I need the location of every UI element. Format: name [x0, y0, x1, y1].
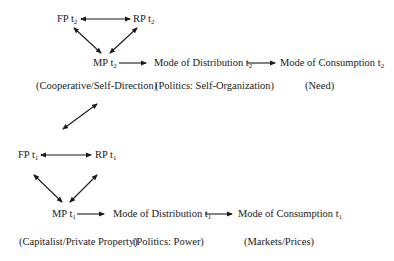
arrow-rp-mp-t1	[70, 175, 97, 202]
fp-t1-node: FP t1	[18, 149, 38, 161]
consumption-t2-caption: (Need)	[305, 80, 334, 92]
distribution-t2-caption: (Politics: Self-Organization)	[155, 80, 274, 92]
rp-t2-label: RP t	[133, 13, 151, 24]
mp-t2-caption: (Cooperative/Self-Direction)	[36, 80, 157, 92]
distribution-t1-caption: (Politics: Power)	[133, 236, 204, 248]
fp-t1-label: FP t	[18, 149, 35, 160]
arrow-rp-mp-t2	[110, 28, 137, 53]
mp-t1-caption: (Capitalist/Private Property)	[19, 236, 138, 248]
consumption-t2-node: Mode of Consumption t2	[280, 57, 384, 69]
arrow-t1-t2	[63, 104, 97, 129]
consumption-t1-node: Mode of Consumption t1	[238, 208, 342, 220]
arrow-fp-mp-t2	[74, 28, 101, 53]
mp-t1-label: MP t	[52, 208, 72, 219]
arrow-layer	[0, 0, 394, 261]
consumption-t2-label: Mode of Consumption t	[280, 57, 381, 68]
consumption-t1-caption: (Markets/Prices)	[244, 236, 314, 248]
rp-t1-node: RP t1	[95, 149, 117, 161]
mp-t2-label: MP t	[93, 57, 113, 68]
distribution-t2-subscript: 2	[249, 62, 253, 70]
consumption-t2-subscript: 2	[381, 62, 385, 70]
mp-t1-subscript: 1	[72, 213, 76, 221]
rp-t2-node: RP t2	[133, 13, 155, 25]
consumption-t1-label: Mode of Consumption t	[238, 208, 339, 219]
consumption-t1-subscript: 1	[339, 213, 343, 221]
mp-t2-node: MP t2	[93, 57, 117, 69]
rp-t2-subscript: 2	[151, 18, 155, 26]
distribution-t1-node: Mode of Distribution t1	[113, 208, 211, 220]
distribution-t1-subscript: 1	[208, 213, 212, 221]
fp-t2-subscript: 2	[74, 18, 78, 26]
fp-t2-label: FP t	[57, 13, 74, 24]
distribution-t1-label: Mode of Distribution t	[113, 208, 208, 219]
mp-t1-node: MP t1	[52, 208, 76, 220]
rp-t1-subscript: 1	[113, 154, 117, 162]
rp-t1-label: RP t	[95, 149, 113, 160]
arrow-fp-mp-t1	[34, 175, 62, 202]
distribution-t2-node: Mode of Distribution t2	[154, 57, 252, 69]
fp-t1-subscript: 1	[35, 154, 39, 162]
distribution-t2-label: Mode of Distribution t	[154, 57, 249, 68]
mp-t2-subscript: 2	[113, 62, 117, 70]
fp-t2-node: FP t2	[57, 13, 77, 25]
